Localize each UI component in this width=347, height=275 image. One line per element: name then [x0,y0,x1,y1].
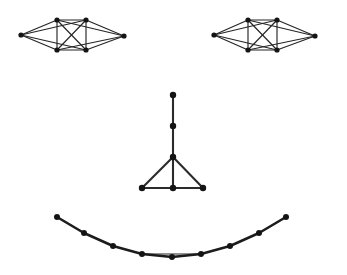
figure-canvas [0,0,347,275]
nose-graph [139,92,206,191]
mouth-path-graph [54,214,289,260]
graph-face-illustration [0,0,347,275]
graph-node-bottom-left [245,47,250,52]
graph-node-stem-middle [170,123,176,129]
graph-node-mouth-left-2 [81,230,87,236]
graph-node-left-apex [18,32,23,37]
graph-edge [214,20,277,35]
graph-edge [21,35,86,50]
graph-node-mouth-right-3 [227,243,233,249]
graph-edge [173,157,203,188]
graph-node-triangle-bottom-left [139,185,145,191]
graph-node-left-apex [211,32,216,37]
graph-edge [214,35,277,50]
graph-node-mouth-left-end [54,214,60,220]
graph-node-bottom-left [54,47,59,52]
graph-node-top-right [274,17,279,22]
graph-node-mouth-right-end [283,214,289,220]
graph-node-right-apex [121,33,126,38]
graph-node-mouth-center [169,254,175,260]
graph-node-mouth-right-4 [198,251,204,257]
graph-node-stem-top [170,92,176,98]
graph-edge [142,157,173,188]
graph-node-top-left [245,17,250,22]
mouth-curve [57,217,286,257]
graph-node-top-left [54,17,59,22]
graph-edge [214,20,248,35]
graph-edge [21,20,86,35]
graph-node-top-right [83,17,88,22]
graph-node-triangle-apex [170,154,176,160]
graph-node-triangle-bottom-right [200,185,206,191]
graph-node-triangle-bottom-center [170,185,176,191]
graph-node-mouth-left-4 [139,251,145,257]
graph-node-bottom-right [83,47,88,52]
graph-node-mouth-right-2 [256,230,262,236]
graph-edge [214,35,248,50]
graph-node-bottom-right [274,47,279,52]
graph-node-mouth-left-3 [110,243,116,249]
left-eye-graph [18,17,126,52]
right-eye-graph [211,17,317,52]
graph-node-right-apex [312,33,317,38]
